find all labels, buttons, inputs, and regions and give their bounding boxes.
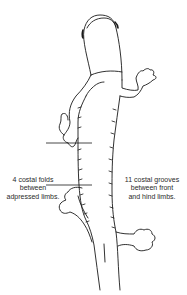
tail-midline — [104, 244, 105, 262]
right-annotation: 11 costal grooves between front and hind… — [118, 176, 186, 201]
costal-ticks-left — [78, 107, 89, 222]
left-annotation: 4 costal folds between adpressed limbs. — [2, 176, 64, 201]
body-left-inner — [78, 96, 100, 290]
neck-line — [91, 71, 122, 75]
left-hind-limb — [59, 187, 92, 242]
right-front-limb — [120, 69, 156, 98]
left-front-limb — [68, 82, 104, 147]
eye-left — [82, 30, 83, 38]
body-left-outline — [63, 75, 91, 143]
left-hind-limb-inner — [78, 196, 88, 218]
salamander-diagram — [0, 0, 187, 295]
right-hind-limb — [116, 229, 155, 251]
